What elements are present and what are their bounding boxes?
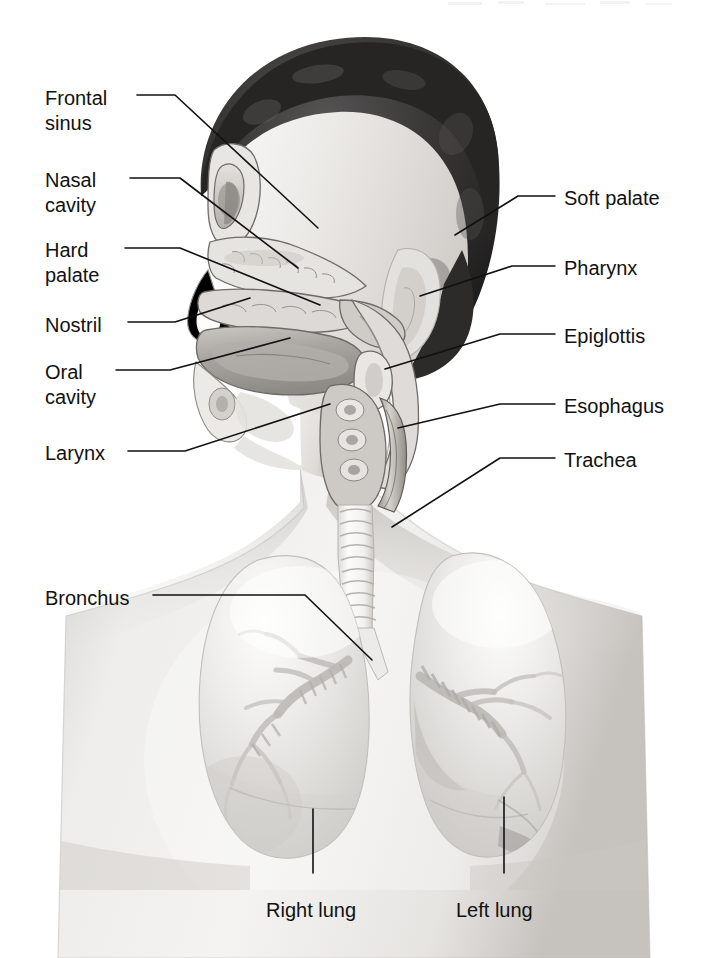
label-hard-palate: Hard palate [45, 238, 100, 288]
label-left-lung: Left lung [456, 898, 533, 923]
label-soft-palate: Soft palate [564, 186, 660, 211]
label-larynx: Larynx [45, 441, 105, 466]
label-nostril: Nostril [45, 313, 102, 338]
label-nasal-cavity: Nasal cavity [45, 168, 96, 218]
scan-artifact [448, 1, 672, 5]
anatomical-illustration [0, 0, 708, 958]
label-bronchus: Bronchus [45, 586, 130, 611]
label-pharynx: Pharynx [564, 256, 637, 281]
respiratory-system-figure: Frontal sinus Nasal cavity Hard palate N… [0, 0, 708, 958]
label-right-lung: Right lung [266, 898, 356, 923]
label-trachea: Trachea [564, 448, 637, 473]
leader-trachea [392, 458, 555, 527]
label-frontal-sinus: Frontal sinus [45, 86, 107, 136]
label-esophagus: Esophagus [564, 394, 664, 419]
label-oral-cavity: Oral cavity [45, 360, 96, 410]
leader-esophagus [398, 404, 555, 428]
label-epiglottis: Epiglottis [564, 324, 645, 349]
